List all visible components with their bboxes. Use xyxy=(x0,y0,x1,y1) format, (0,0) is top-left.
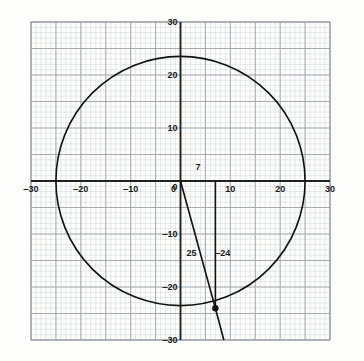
y-tick-label: 10 xyxy=(167,124,177,133)
annotation-opposite-neg24: ‒24 xyxy=(215,248,230,257)
coordinate-plane-svg xyxy=(0,0,364,361)
annotation-adjacent-7: 7 xyxy=(195,163,200,172)
y-tick-label: ‒30 xyxy=(162,336,177,345)
terminal-point xyxy=(212,305,218,311)
y-tick-label: 30 xyxy=(167,18,177,27)
x-tick-label: ‒10 xyxy=(123,185,138,194)
y-tick-label: 0 xyxy=(172,183,177,192)
y-tick-label: ‒10 xyxy=(162,230,177,239)
x-tick-label: ‒20 xyxy=(73,185,88,194)
x-tick-label: ‒30 xyxy=(23,185,38,194)
y-tick-label: 20 xyxy=(167,71,177,80)
x-tick-label: 30 xyxy=(325,185,335,194)
x-tick-label: 10 xyxy=(225,185,235,194)
x-tick-label: 20 xyxy=(275,185,285,194)
chart-canvas: ‒30‒20‒1001020303020100‒10‒20‒30725‒24 xyxy=(0,0,364,361)
y-tick-label: ‒20 xyxy=(162,283,177,292)
annotation-hypotenuse-25: 25 xyxy=(186,248,196,257)
